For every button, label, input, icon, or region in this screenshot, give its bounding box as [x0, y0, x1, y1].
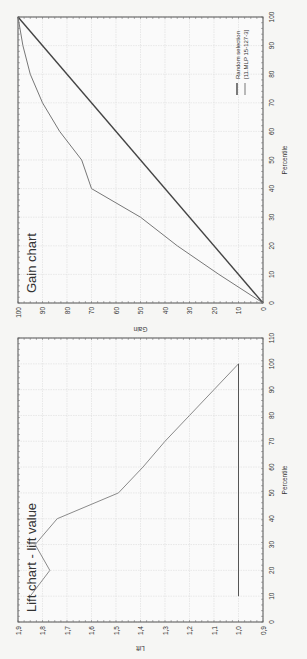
legend-entry: [11.MLP 15-127-3] — [243, 30, 249, 79]
x-tick-label: 50 — [268, 156, 275, 164]
y-tick-label: 1,3 — [162, 626, 169, 635]
x-tick-label: 100 — [268, 11, 275, 22]
x-tick-label: 40 — [268, 515, 275, 523]
y-tick-label: 1,8 — [39, 626, 46, 635]
chart-title: Lift chart - lift value — [24, 503, 39, 612]
x-tick-label: 90 — [268, 386, 275, 394]
y-tick-label: 1,6 — [88, 626, 95, 635]
x-tick-label: 100 — [268, 358, 275, 369]
y-tick-label: 40 — [162, 307, 169, 315]
y-tick-label: 30 — [186, 307, 193, 315]
x-tick-label: 20 — [268, 566, 275, 574]
y-tick-label: 70 — [88, 307, 95, 315]
x-tick-label: 50 — [268, 489, 275, 497]
y-tick-label: 60 — [113, 307, 120, 315]
x-tick-label: 110 — [268, 332, 275, 343]
y-tick-label: 50 — [137, 307, 144, 315]
y-tick-label: 0 — [260, 307, 267, 311]
y-tick-label: 0,9 — [260, 626, 267, 635]
y-tick-label: 90 — [39, 307, 46, 315]
chart-title: Gain chart — [24, 233, 39, 293]
x-tick-label: 0 — [268, 620, 275, 624]
y-tick-label: 1,5 — [113, 626, 120, 635]
x-tick-label: 20 — [268, 242, 275, 250]
x-axis-label: Percentile — [281, 465, 288, 494]
x-tick-label: 30 — [268, 213, 275, 221]
x-tick-label: 70 — [268, 99, 275, 107]
legend-entry: Random selection — [235, 31, 241, 79]
x-tick-label: 30 — [268, 541, 275, 549]
x-tick-label: 80 — [268, 70, 275, 78]
y-tick-label: 10 — [235, 307, 242, 315]
x-tick-label: 60 — [268, 127, 275, 135]
y-tick-label: 20 — [211, 307, 218, 315]
y-tick-label: 80 — [64, 307, 71, 315]
y-tick-label: 1,1 — [211, 626, 218, 635]
y-tick-label: 1,7 — [64, 626, 71, 635]
y-tick-label: 1,0 — [235, 626, 242, 635]
x-tick-label: 80 — [268, 411, 275, 419]
x-tick-label: 40 — [268, 185, 275, 193]
chart-0: 01020304050607080901001100,91,01,11,21,3… — [15, 332, 289, 652]
y-tick-label: 1,9 — [15, 626, 22, 635]
y-tick-label: 1,2 — [186, 626, 193, 635]
x-axis-label: Percentile — [281, 145, 288, 174]
charts-page: 01020304050607080901001100,91,01,11,21,3… — [0, 0, 307, 659]
x-tick-label: 90 — [268, 42, 275, 50]
y-axis-label: Gain — [133, 326, 147, 333]
x-tick-label: 60 — [268, 463, 275, 471]
x-tick-label: 70 — [268, 437, 275, 445]
y-tick-label: 1,4 — [137, 626, 144, 635]
x-tick-label: 0 — [268, 301, 275, 305]
x-tick-label: 10 — [268, 270, 275, 278]
y-axis-label: Lift — [136, 645, 145, 652]
chart-1: 0102030405060708090100010203040506070809… — [15, 11, 289, 333]
x-tick-label: 10 — [268, 592, 275, 600]
y-tick-label: 100 — [15, 307, 22, 318]
charts-canvas: 01020304050607080901001100,91,01,11,21,3… — [0, 0, 307, 659]
